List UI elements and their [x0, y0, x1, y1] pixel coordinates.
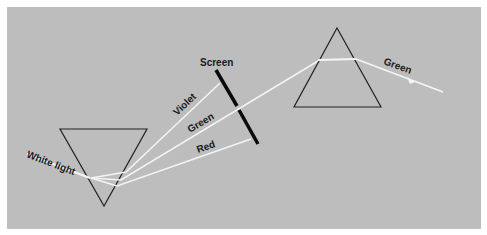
label-screen: Screen	[200, 57, 233, 68]
prism-dispersion-diagram: White light Screen Violet Green Red Gree…	[0, 0, 487, 235]
green-ray-inside-prism	[318, 59, 356, 60]
